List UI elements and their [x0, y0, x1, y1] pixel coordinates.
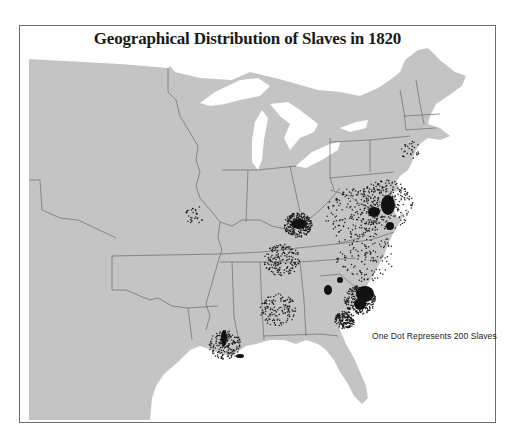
map-legend: One Dot Represents 200 Slaves — [372, 331, 497, 341]
map-title: Geographical Distribution of Slaves in 1… — [19, 29, 496, 49]
land-mass — [29, 48, 466, 420]
slave-distribution-map — [0, 0, 516, 444]
lake-okeechobee — [370, 387, 375, 392]
